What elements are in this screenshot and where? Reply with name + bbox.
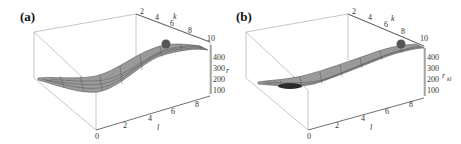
tick-label: 200 (213, 75, 225, 84)
tick-label: 100 (213, 86, 225, 95)
surface-plot-a: 2 4 6 8 10 k 400 300 200 100 r 0 2 4 6 8… (0, 0, 230, 144)
plot-element (96, 96, 210, 130)
tick-label: 300 (213, 64, 225, 73)
plot-element (348, 14, 424, 46)
tick-label: k (391, 14, 395, 23)
plot-element (34, 14, 210, 42)
tick-label: 6 (385, 107, 389, 116)
panel-b: (b) 2 4 6 8 10 k (230, 0, 460, 144)
tick-label: 400 (427, 53, 439, 62)
marker-ball (397, 40, 406, 49)
tick-label: 4 (368, 13, 372, 22)
tick-label: 2 (352, 7, 356, 16)
tick-label: k (173, 12, 177, 21)
tick-label: 200 (427, 75, 439, 84)
plot-element (246, 14, 424, 46)
tick-label: r (442, 71, 446, 80)
tick-label: l (370, 123, 373, 132)
surface (38, 44, 208, 92)
tick-label: 0 (95, 132, 99, 141)
tick-label: 4 (155, 13, 159, 22)
surface (258, 44, 424, 86)
tick-label: 2 (123, 121, 127, 130)
tick-label: 10 (420, 34, 428, 43)
tick-label: 400 (213, 53, 225, 62)
tick-label: 300 (427, 64, 439, 73)
tick-label: 100 (427, 86, 439, 95)
tick-label: 6 (171, 107, 175, 116)
tick-label: 6 (384, 20, 388, 29)
tick-label: 10 (207, 34, 215, 43)
panel-a: (a) 2 4 6 8 (0, 0, 230, 144)
tick-label: 8 (188, 26, 192, 35)
plot-element (308, 98, 424, 130)
tick-label: 2 (335, 121, 339, 130)
surface-plot-b: 2 4 6 8 10 k 400 300 200 100 r kl 0 2 4 … (230, 0, 461, 144)
tick-label: 0 (307, 132, 311, 141)
tick-label: l (157, 123, 160, 132)
tick-label: 4 (148, 114, 152, 123)
marker-ball (162, 40, 171, 49)
tick-label: kl (447, 76, 452, 82)
tick-label: 4 (361, 114, 365, 123)
tick-label: 8 (409, 100, 413, 109)
tick-label: 2 (140, 7, 144, 16)
tick-label: 8 (401, 27, 405, 36)
tick-label: 8 (195, 100, 199, 109)
